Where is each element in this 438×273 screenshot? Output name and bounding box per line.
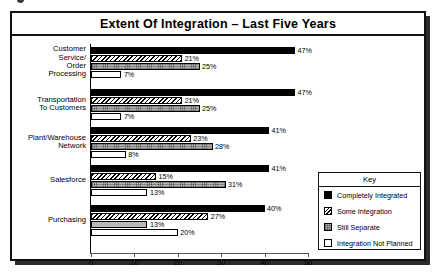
x-tick-mark [91,253,92,257]
bar-1-1 [91,97,182,104]
bar-1-0 [91,55,182,62]
bar-value-label: 13% [150,189,164,196]
category-label: Salesforce [12,176,86,184]
legend-item: Still Separate [319,219,420,235]
legend-item: Completely Integrated [319,187,420,203]
legend-item-label: Completely Integrated [337,191,407,200]
scan-artifact-speck [17,0,24,3]
chart-title-band: Extent Of Integration – Last Five Years [12,13,424,36]
bar-value-label: 21% [185,97,199,104]
legend-item: Integration Not Planned [319,235,420,251]
bar-0-2 [91,127,269,134]
bar-2-1 [91,105,200,112]
bar-2-4 [91,221,147,228]
bar-value-label: 8% [128,151,138,158]
bar-1-4 [91,213,208,220]
bar-1-3 [91,173,156,180]
bar-0-4 [91,205,265,212]
x-axis-line [90,253,308,254]
bar-3-3 [91,189,147,196]
bar-value-label: 40% [267,205,281,212]
bar-1-2 [91,135,191,142]
category-label-line: Salesforce [12,176,86,184]
bar-value-label: 27% [211,213,225,220]
x-tick-label: 50 [304,258,312,267]
bar-0-3 [91,165,269,172]
x-tick-mark [308,253,309,257]
legend-box: Key Completely IntegratedSome Integratio… [318,172,421,250]
bar-0-1 [91,89,295,96]
bar-value-label: 15% [159,173,173,180]
x-tick-label: 20 [174,258,182,267]
legend-item-label: Still Separate [337,223,380,232]
category-label: Plant/WarehouseNetwork [12,134,86,150]
category-label-line: Processing [12,70,86,78]
x-tick-label: 10 [130,258,138,267]
bar-3-1 [91,113,121,120]
bar-value-label: 23% [193,135,207,142]
bar-2-3 [91,181,226,188]
x-tick-mark [134,253,135,257]
bar-value-label: 25% [202,63,216,70]
x-tick-label: 0 [89,258,93,267]
legend-rows: Completely IntegratedSome IntegrationSti… [319,187,420,251]
bar-2-0 [91,63,200,70]
bar-value-label: 31% [228,181,242,188]
bar-value-label: 25% [202,105,216,112]
x-tick-mark [178,253,179,257]
legend-swatch-icon [324,239,332,247]
legend-item-label: Integration Not Planned [337,239,413,248]
bar-3-4 [91,229,178,236]
chart-title: Extent Of Integration – Last Five Years [100,17,336,31]
legend-swatch-icon [324,223,332,231]
bar-value-label: 20% [180,229,194,236]
category-label-line: To Customers [12,104,86,112]
x-tick-label: 40 [260,258,268,267]
legend-title: Key [319,173,420,187]
bar-3-0 [91,71,121,78]
bar-value-label: 41% [271,127,285,134]
bar-value-label: 13% [150,221,164,228]
x-tick-label: 30 [217,258,225,267]
category-label: Purchasing [12,216,86,224]
bar-value-label: 47% [297,89,311,96]
category-label-line: Purchasing [12,216,86,224]
bar-value-label: 7% [124,113,134,120]
legend-swatch-icon [324,207,332,215]
legend-swatch-icon [324,191,332,199]
legend-item-label: Some Integration [337,207,392,216]
bar-0-0 [91,47,295,54]
bar-value-label: 41% [271,165,285,172]
chart-frame: Extent Of Integration – Last Five Years … [10,11,426,261]
x-tick-mark [221,253,222,257]
bar-2-2 [91,143,213,150]
legend-item: Some Integration [319,203,420,219]
bar-3-2 [91,151,126,158]
bar-value-label: 47% [297,47,311,54]
category-label: TransportationTo Customers [12,96,86,112]
bar-value-label: 28% [215,143,229,150]
frame-shadow-right [426,16,430,264]
category-label-line: Network [12,142,86,150]
x-tick-mark [265,253,266,257]
bar-value-label: 7% [124,71,134,78]
bar-value-label: 21% [185,55,199,62]
category-label: CustomerService/OrderProcessing [12,45,86,78]
